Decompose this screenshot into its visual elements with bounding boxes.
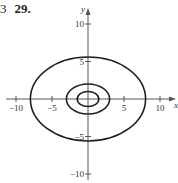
ellipse-plot: xy−10−5510−10−5510	[0, 0, 178, 183]
y-axis-label: y	[80, 4, 85, 14]
y-tick-label: 10	[75, 19, 85, 29]
y-axis-arrow-icon	[86, 8, 91, 15]
x-tick-label: −5	[47, 103, 57, 113]
x-tick-label: 10	[156, 103, 166, 113]
x-tick-label: −10	[9, 103, 24, 113]
x-axis-label: x	[173, 100, 178, 110]
y-tick-label: −10	[70, 169, 85, 179]
x-tick-label: 5	[122, 103, 127, 113]
